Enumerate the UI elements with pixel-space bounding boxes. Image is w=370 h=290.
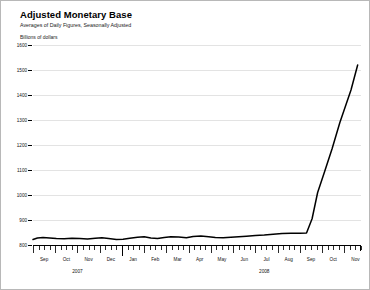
- x-axis-month-tick: [233, 246, 234, 253]
- x-axis-week-tick: [305, 246, 306, 250]
- x-axis-year-label: 2008: [259, 269, 269, 274]
- x-axis-week-tick: [333, 246, 334, 250]
- y-axis-tick-mark: [28, 70, 32, 71]
- y-axis-tick-mark: [28, 120, 32, 121]
- x-axis-week-tick: [139, 246, 140, 250]
- x-axis-week-tick: [239, 246, 240, 250]
- y-axis-tick-label: 800: [10, 243, 27, 248]
- y-axis-tick-label: 1400: [10, 93, 27, 98]
- y-axis-tick-mark: [28, 45, 32, 46]
- x-axis-week-tick: [200, 246, 201, 250]
- x-axis-week-tick: [105, 246, 106, 250]
- x-axis-month-tick: [77, 246, 78, 253]
- y-axis-tick-mark: [28, 245, 32, 246]
- x-axis-week-tick: [355, 246, 356, 250]
- x-axis-week-tick: [155, 246, 156, 250]
- x-axis-week-tick: [328, 246, 329, 250]
- x-axis-week-tick: [72, 246, 73, 250]
- x-axis-week-tick: [266, 246, 267, 250]
- x-axis-week-tick: [261, 246, 262, 250]
- x-axis-month-label: Jun: [240, 257, 248, 262]
- y-axis-tick-mark: [28, 170, 32, 171]
- x-axis-week-tick: [194, 246, 195, 250]
- x-axis-week-tick: [111, 246, 112, 250]
- x-axis-month-tick: [55, 246, 56, 253]
- x-axis-week-tick: [294, 246, 295, 250]
- y-axis-tick-label: 900: [10, 218, 27, 223]
- x-axis-week-tick: [94, 246, 95, 250]
- x-axis-week-tick: [44, 246, 45, 250]
- x-axis-month-label: Oct: [63, 257, 70, 262]
- x-axis-week-tick: [50, 246, 51, 250]
- x-axis-week-tick: [350, 246, 351, 250]
- x-axis-month-label: Aug: [285, 257, 293, 262]
- y-axis-tick-mark: [28, 145, 32, 146]
- x-axis-week-tick: [83, 246, 84, 250]
- y-axis-unit-label: Billions of dollars: [20, 34, 58, 40]
- x-axis-month-label: Apr: [196, 257, 203, 262]
- x-axis-month-label: Feb: [151, 257, 159, 262]
- x-axis-month-label: Oct: [330, 257, 337, 262]
- x-axis-month-label: Nov: [351, 257, 359, 262]
- x-axis-week-tick: [361, 246, 362, 250]
- x-axis-week-tick: [244, 246, 245, 250]
- x-axis-week-tick: [39, 246, 40, 250]
- x-axis-year-tick: [122, 246, 123, 256]
- x-axis-month-tick: [144, 246, 145, 253]
- y-axis-tick-label: 1000: [10, 193, 27, 198]
- x-axis-month-tick: [100, 246, 101, 253]
- x-axis-week-tick: [61, 246, 62, 250]
- x-axis-month-label: Sep: [40, 257, 48, 262]
- x-axis-month-label: Jan: [129, 257, 137, 262]
- x-axis-week-tick: [228, 246, 229, 250]
- x-axis-month-label: Nov: [84, 257, 92, 262]
- x-axis-week-tick: [116, 246, 117, 250]
- series-line-chart: [33, 45, 361, 245]
- x-axis-week-tick: [133, 246, 134, 250]
- x-axis-week-tick: [317, 246, 318, 250]
- x-axis-month-label: May: [218, 257, 227, 262]
- y-axis-tick-label: 1200: [10, 143, 27, 148]
- x-axis-month-label: Sep: [307, 257, 315, 262]
- x-axis-week-tick: [128, 246, 129, 250]
- x-axis-week-tick: [150, 246, 151, 250]
- chart-figure: Adjusted Monetary Base Averages of Daily…: [0, 0, 370, 290]
- x-axis-week-tick: [222, 246, 223, 250]
- x-axis-week-tick: [311, 246, 312, 250]
- x-axis-month-tick: [211, 246, 212, 253]
- y-axis-tick-label: 1100: [10, 168, 27, 173]
- x-axis-month-label: Jul: [263, 257, 269, 262]
- x-axis-week-tick: [272, 246, 273, 250]
- y-axis-tick-mark: [28, 95, 32, 96]
- x-axis-week-tick: [205, 246, 206, 250]
- y-axis-tick-label: 1500: [10, 68, 27, 73]
- x-axis-month-tick: [255, 246, 256, 253]
- x-axis-month-tick: [300, 246, 301, 253]
- x-axis-week-tick: [172, 246, 173, 250]
- x-axis-year-label: 2007: [72, 269, 82, 274]
- y-axis-tick-mark: [28, 220, 32, 221]
- x-axis-month-tick: [278, 246, 279, 253]
- x-axis-week-tick: [66, 246, 67, 250]
- x-axis-month-tick: [344, 246, 345, 253]
- x-axis-month-tick: [166, 246, 167, 253]
- x-axis-week-tick: [250, 246, 251, 250]
- x-axis-month-label: Mar: [173, 257, 181, 262]
- x-axis-week-tick: [216, 246, 217, 250]
- series-line-adjusted-monetary-base: [33, 65, 358, 240]
- page-title: Adjusted Monetary Base: [20, 9, 132, 20]
- x-axis-week-tick: [283, 246, 284, 250]
- y-axis-tick-mark: [28, 195, 32, 196]
- x-axis-week-tick: [289, 246, 290, 250]
- x-axis-month-tick: [189, 246, 190, 253]
- x-axis-week-tick: [89, 246, 90, 250]
- x-axis-week-tick: [178, 246, 179, 250]
- x-axis-month-label: Dec: [107, 257, 115, 262]
- x-axis-month-tick: [322, 246, 323, 253]
- y-axis-tick-label: 1300: [10, 118, 27, 123]
- y-axis-tick-label: 1600: [10, 43, 27, 48]
- x-axis-month-tick: [33, 246, 34, 253]
- x-axis-week-tick: [161, 246, 162, 250]
- x-axis-week-tick: [183, 246, 184, 250]
- chart-subtitle: Averages of Daily Figures, Seasonally Ad…: [20, 22, 131, 28]
